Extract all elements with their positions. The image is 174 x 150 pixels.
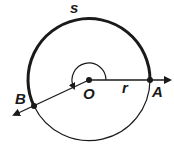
point-o	[86, 77, 92, 83]
label-point-a: A	[151, 83, 163, 100]
label-point-b: B	[15, 90, 26, 107]
circle-diagram: s O r A B	[0, 0, 174, 150]
label-radius-r: r	[122, 79, 129, 96]
label-arc-s: s	[70, 0, 78, 16]
point-b	[31, 103, 37, 109]
angle-arc-icon	[72, 63, 106, 87]
label-center-o: O	[83, 85, 95, 102]
